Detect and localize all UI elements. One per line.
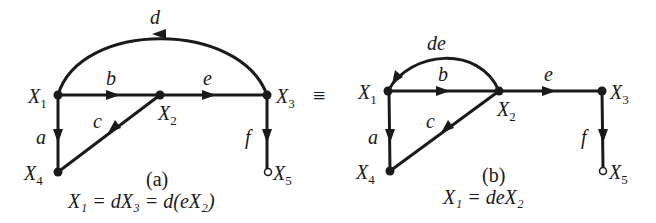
node-x4 bbox=[54, 168, 63, 177]
gain-e: e bbox=[544, 63, 553, 85]
gain-a: a bbox=[368, 126, 378, 148]
node-x1 bbox=[54, 91, 63, 100]
arrow-e-icon bbox=[542, 86, 556, 96]
edge-c-x2-x4 bbox=[58, 95, 160, 172]
equation-b: X₁ = deX₂ bbox=[442, 186, 524, 208]
label-x2: X2 bbox=[496, 98, 516, 124]
equivalence-symbol: ≡ bbox=[313, 83, 325, 108]
gain-d: d bbox=[150, 6, 161, 28]
gain-c: c bbox=[93, 110, 102, 132]
node-x1 bbox=[384, 87, 393, 96]
gain-f: f bbox=[245, 126, 253, 149]
arrow-e-icon bbox=[202, 90, 216, 100]
node-x5 bbox=[265, 169, 272, 176]
arrow-a-icon bbox=[385, 129, 395, 143]
caption-b: (b) bbox=[482, 164, 505, 187]
caption-a: (a) bbox=[146, 168, 168, 191]
node-x2 bbox=[156, 91, 165, 100]
arrow-f-icon bbox=[598, 129, 608, 143]
panel-a: X1 X2 X3 X4 X5 d b e a c f (a) X₁ = dX₃ … bbox=[23, 6, 295, 213]
node-x3 bbox=[598, 87, 607, 96]
label-x4: X4 bbox=[23, 162, 43, 188]
node-x3 bbox=[263, 91, 272, 100]
arrow-b-icon bbox=[106, 90, 120, 100]
label-x3: X3 bbox=[275, 85, 295, 111]
label-x5: X5 bbox=[608, 161, 628, 187]
label-x1: X1 bbox=[27, 85, 47, 111]
label-x5: X5 bbox=[272, 162, 292, 188]
gain-c: c bbox=[426, 110, 435, 132]
label-x2: X2 bbox=[157, 102, 177, 128]
label-x3: X3 bbox=[609, 81, 629, 107]
panel-b: X1 X2 X3 X4 X5 de b e a c f (b) X₁ = deX… bbox=[355, 32, 629, 208]
equation-a: X₁ = dX₃ = d(eX₂) bbox=[67, 190, 215, 213]
gain-f: f bbox=[581, 126, 589, 149]
arrow-b-icon bbox=[436, 86, 450, 96]
edge-d-x3-x1 bbox=[58, 39, 267, 95]
gain-b: b bbox=[438, 63, 448, 85]
label-x4: X4 bbox=[355, 161, 375, 187]
node-x2 bbox=[495, 87, 504, 96]
gain-a: a bbox=[36, 126, 46, 148]
node-x5 bbox=[600, 168, 607, 175]
arrow-c-icon bbox=[441, 120, 454, 133]
arrow-f-icon bbox=[262, 129, 272, 143]
arrow-a-icon bbox=[53, 129, 63, 143]
arrow-de-icon bbox=[392, 70, 403, 84]
signal-flow-graph-figure: X1 X2 X3 X4 X5 d b e a c f (a) X₁ = dX₃ … bbox=[0, 0, 656, 223]
label-x1: X1 bbox=[357, 81, 377, 107]
gain-e: e bbox=[203, 67, 212, 89]
gain-de: de bbox=[427, 32, 446, 54]
node-x4 bbox=[386, 167, 395, 176]
gain-b: b bbox=[106, 67, 116, 89]
